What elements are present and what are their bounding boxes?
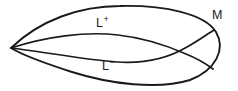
- label-l-minus-superscript: −: [109, 57, 114, 67]
- label-l-minus: L−: [102, 60, 115, 73]
- label-l-plus-base: L: [96, 16, 103, 30]
- label-l-plus: L+: [96, 17, 109, 30]
- label-m: M: [212, 8, 222, 22]
- label-l-plus-superscript: +: [103, 14, 108, 24]
- label-l-minus-base: L: [102, 59, 109, 73]
- label-m-base: M: [212, 8, 222, 22]
- diagram-svg: [0, 0, 238, 91]
- figure-canvas: L+ L− M: [0, 0, 238, 91]
